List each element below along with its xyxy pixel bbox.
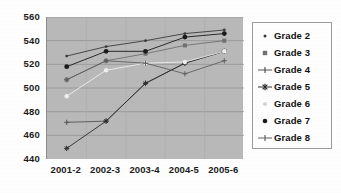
series-grade-8 [64,58,227,82]
data-point-marker [223,29,226,32]
series-line [67,51,225,96]
legend-item-grade-5[interactable]: Grade 5 [256,78,328,95]
x-axis-tick-label: 2004-5 [169,164,199,176]
data-point-marker [65,55,68,58]
data-point-marker [222,31,227,36]
y-axis-tick-label: 500 [24,83,40,93]
x-axis-tick-label: 2001-2 [51,164,81,176]
series-grade-3 [65,39,227,82]
legend-item-grade-8[interactable]: Grade 8 [256,129,328,146]
data-point-marker [64,64,69,69]
legend-item-label: Grade 8 [274,132,310,143]
y-axis-tick-label: 440 [24,154,40,164]
x-axis-tick-label: 2005-6 [208,164,238,176]
data-point-marker [105,45,108,48]
dot-light-icon [256,95,274,112]
data-point-marker [184,32,187,35]
data-point-marker [143,49,148,54]
x-axis-tick-label: 2003-4 [129,164,159,176]
legend-item-label: Grade 5 [274,81,310,92]
series-line [67,51,225,148]
legend-item-grade-4[interactable]: Grade 4 [256,61,328,78]
data-point-marker [222,49,226,53]
y-axis: 440460480500520540560 [0,17,42,159]
chart-root: 440460480500520540560 2001-22002-32003-4… [0,0,341,193]
series-line [67,41,225,80]
plus-dark-icon [256,129,274,146]
legend-item-label: Grade 2 [274,30,310,41]
legend-item-label: Grade 7 [274,115,310,126]
legend-item-grade-3[interactable]: Grade 3 [256,44,328,61]
legend-item-grade-7[interactable]: Grade 7 [256,112,328,129]
data-point-marker [183,60,187,64]
legend-item-label: Grade 6 [274,98,310,109]
plot-area [46,17,243,159]
y-axis-tick-label: 460 [24,130,40,140]
star-icon [256,78,274,95]
legend-item-grade-6[interactable]: Grade 6 [256,95,328,112]
x-axis: 2001-22002-32003-42004-52005-6 [46,164,243,186]
data-point-marker [104,49,109,54]
y-axis-tick-label: 520 [24,59,40,69]
series-grade-4 [64,49,227,125]
series-grade-6 [65,49,227,98]
data-point-marker [183,43,187,47]
data-point-marker [144,39,147,42]
legend-item-label: Grade 3 [274,47,310,58]
plus-icon [256,61,274,78]
y-axis-tick-label: 560 [24,12,40,22]
dot-dark-icon [256,112,274,129]
chart-legend: Grade 2Grade 3Grade 4Grade 5Grade 6Grade… [252,22,332,149]
data-point-marker [104,68,108,72]
dot-small-icon [256,27,274,44]
square-gray-icon [256,44,274,61]
data-point-marker [183,35,188,40]
legend-item-label: Grade 4 [274,64,310,75]
data-point-marker [65,94,69,98]
y-axis-tick-label: 480 [24,107,40,117]
legend-item-grade-2[interactable]: Grade 2 [256,27,328,44]
data-point-marker [222,39,226,43]
y-axis-tick-label: 540 [24,36,40,46]
x-axis-tick-label: 2002-3 [90,164,120,176]
chart-plot-svg [47,17,244,159]
